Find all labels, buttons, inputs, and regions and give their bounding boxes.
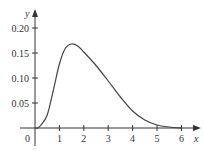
y-axis-label: y bbox=[24, 8, 30, 19]
axes: x y 0 bbox=[20, 8, 201, 146]
y-ticks: 0.050.100.150.20 bbox=[12, 23, 39, 109]
y-tick-label: 0.10 bbox=[12, 73, 30, 84]
series-line bbox=[35, 44, 181, 128]
series-group bbox=[35, 44, 181, 128]
x-tick-label: 2 bbox=[81, 133, 86, 144]
chart: x y 0 123456 0.050.100.150.20 bbox=[0, 0, 204, 151]
x-tick-label: 4 bbox=[130, 133, 135, 144]
x-axis-arrow-icon bbox=[193, 125, 201, 131]
y-tick-label: 0.05 bbox=[12, 98, 30, 109]
x-tick-label: 5 bbox=[155, 133, 160, 144]
y-tick-label: 0.20 bbox=[12, 23, 30, 34]
origin-label: 0 bbox=[25, 133, 30, 144]
y-tick-label: 0.15 bbox=[12, 48, 30, 59]
x-axis-label: x bbox=[193, 133, 199, 144]
x-tick-label: 6 bbox=[179, 133, 184, 144]
y-axis-arrow-icon bbox=[32, 9, 38, 17]
x-tick-label: 1 bbox=[57, 133, 62, 144]
x-tick-label: 3 bbox=[106, 133, 111, 144]
